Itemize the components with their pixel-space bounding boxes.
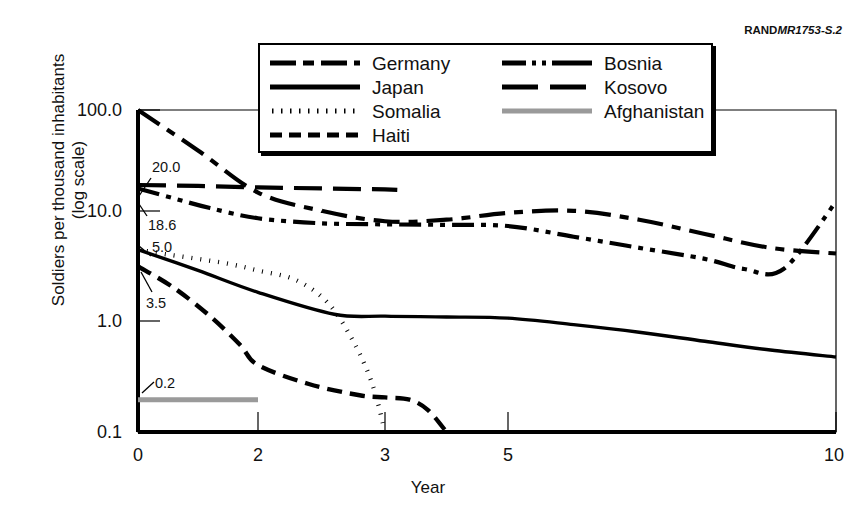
legend-item-haiti[interactable]: Haiti [270,123,450,147]
legend-swatch-germany-icon [270,56,360,70]
series-line-somalia [138,250,385,432]
leader-line-afghanistan [142,382,154,393]
legend-label-germany: Germany [372,54,450,73]
legend-item-japan[interactable]: Japan [270,75,450,99]
legend-label-japan: Japan [372,78,424,97]
legend-swatch-haiti-icon [270,128,360,142]
legend-swatch-bosnia-icon [502,56,592,70]
legend-item-afghanistan[interactable]: Afghanistan [502,99,704,123]
series-line-haiti [138,266,447,432]
legend-box: Germany Japan Somalia Haiti [258,43,713,153]
series-line-kosovo [138,185,397,190]
legend-column-left: Germany Japan Somalia Haiti [270,51,450,147]
legend-swatch-afghanistan-icon [502,104,592,118]
legend-label-haiti: Haiti [372,126,410,145]
legend-swatch-somalia-icon [270,104,360,118]
series-group [138,110,836,432]
legend-swatch-kosovo-icon [502,80,592,94]
legend-item-bosnia[interactable]: Bosnia [502,51,704,75]
series-line-bosnia [138,188,836,274]
legend-label-kosovo: Kosovo [604,78,667,97]
leader-line-haiti [141,272,152,292]
leader-line-bosnia [139,204,147,216]
legend-column-right: Bosnia Kosovo Afghanistan [502,51,704,123]
legend-item-somalia[interactable]: Somalia [270,99,450,123]
legend-item-kosovo[interactable]: Kosovo [502,75,704,99]
legend-label-afghanistan: Afghanistan [604,102,704,121]
legend-swatch-japan-icon [270,80,360,94]
legend-item-germany[interactable]: Germany [270,51,450,75]
chart-figure: RANDMR1753-S.2 Soldiers per thousand inh… [0,0,856,515]
legend-label-bosnia: Bosnia [604,54,662,73]
legend-label-somalia: Somalia [372,102,441,121]
plot-frame [138,110,836,432]
